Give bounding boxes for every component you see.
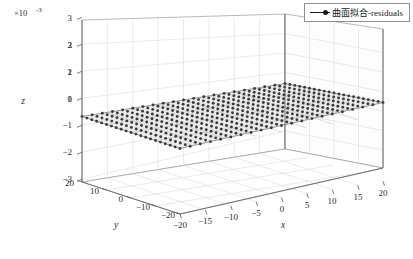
x-tick-label: 5 [305,200,310,210]
z-tick-label-0: 0 [68,94,73,104]
z-axis-exponent: ×10 -3 [14,6,42,19]
y-tick-label: 0 [119,194,124,204]
line-circle-marker-icon [310,8,332,18]
exponent-base: ×10 [14,8,27,18]
legend-label: 曲面拟合-residuals [332,6,403,19]
exponent-superscript: -3 [36,6,42,14]
y-tick-label: 10 [90,186,100,196]
figure-3d-residuals-plot: 3 2 1 0 . −1 −2 −3 z 3 2 1 0 ×10 -3 [0,0,413,259]
z-tick-label-1: 1 [68,67,73,77]
x-tick-label: −10 [224,212,239,222]
x-tick-label: −20 [173,220,188,230]
y-tick-label: 20 [65,178,75,188]
y-tick-label: −10 [136,202,151,212]
x-tick-label: 0 [280,204,285,214]
z-tick-label: −1 [62,120,72,130]
z-axis: 3 2 1 0 . −1 −2 −3 z [20,17,82,184]
z-axis-upper-labels: 3 2 1 0 [68,13,73,104]
x-tick-label: 10 [328,196,338,206]
z-tick-label: −2 [62,147,72,157]
z-tick-label-2: 2 [68,40,73,50]
x-tick-label: 20 [379,188,389,198]
y-tick-label: −20 [161,210,176,220]
legend[interactable]: 曲面拟合-residuals [304,3,410,22]
z-tick-label-3: 3 [68,13,73,23]
x-tick-label: −15 [198,216,213,226]
z-axis-label: z [20,96,25,106]
y-axis-label: y [113,220,119,230]
x-tick-label: 15 [354,192,364,202]
plot-canvas: 3 2 1 0 . −1 −2 −3 z 3 2 1 0 ×10 -3 [0,0,413,259]
x-tick-label: −5 [251,208,261,218]
x-axis-label: x [280,220,286,230]
